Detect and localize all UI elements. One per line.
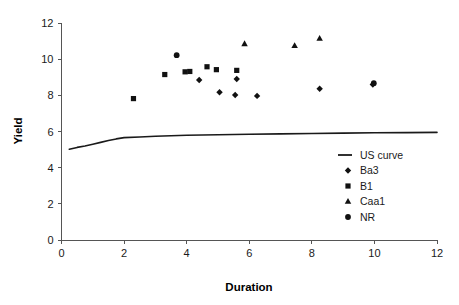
legend-swatch-circle: [345, 214, 351, 220]
y-axis-title: Yield: [12, 117, 24, 144]
x-tick-label: 10: [368, 247, 380, 259]
x-tick-label: 12: [431, 247, 443, 259]
data-point-b1: [214, 67, 219, 72]
x-tick-label: 4: [184, 247, 190, 259]
data-point-b1: [187, 69, 192, 74]
y-tick-label: 4: [47, 162, 53, 174]
y-tick-label: 0: [47, 234, 53, 246]
legend-label: Caa1: [360, 195, 385, 207]
data-point-b1: [204, 64, 209, 69]
y-tick-label: 2: [47, 198, 53, 210]
legend-label: Ba3: [360, 164, 379, 176]
x-axis-title: Duration: [225, 281, 272, 293]
scatter-chart: 024681012 024681012 Duration Yield US cu…: [0, 0, 459, 305]
x-tick-label: 2: [121, 247, 127, 259]
y-tick-label: 12: [41, 17, 53, 29]
chart-canvas: 024681012 024681012 Duration Yield US cu…: [0, 0, 459, 305]
legend-label: B1: [360, 180, 373, 192]
x-tick-label: 6: [246, 247, 252, 259]
y-tick-label: 6: [47, 126, 53, 138]
data-point-b1: [234, 68, 239, 73]
legend-label: US curve: [360, 149, 403, 161]
data-point-b1: [183, 69, 188, 74]
y-tick-label: 8: [47, 89, 53, 101]
x-tick-label: 0: [58, 247, 64, 259]
y-tick-label: 10: [41, 53, 53, 65]
data-point-nr: [371, 80, 377, 86]
data-point-nr: [174, 52, 180, 58]
legend-label: NR: [360, 211, 376, 223]
legend-swatch-square: [345, 183, 350, 188]
x-tick-label: 8: [309, 247, 315, 259]
data-point-b1: [131, 96, 136, 101]
data-point-b1: [162, 72, 167, 77]
